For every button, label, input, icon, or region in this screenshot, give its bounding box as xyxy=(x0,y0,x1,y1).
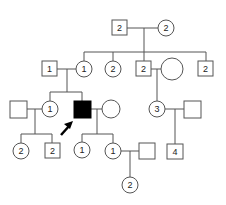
svg-text:4: 4 xyxy=(172,147,177,157)
pedigree-chart: 2 2 1 1 2 2 2 1 3 xyxy=(0,0,226,205)
svg-text:2: 2 xyxy=(141,64,146,74)
svg-text:2: 2 xyxy=(127,180,132,190)
proband-arrow-icon xyxy=(61,121,73,135)
svg-text:2: 2 xyxy=(50,146,55,156)
person-III-2-spouse xyxy=(102,100,120,118)
svg-text:1: 1 xyxy=(79,145,84,155)
person-II-3: 2 xyxy=(136,61,151,76)
svg-text:2: 2 xyxy=(18,146,23,156)
svg-text:2: 2 xyxy=(203,64,208,74)
person-II-1: 1 xyxy=(76,61,92,77)
person-IV-1: 2 xyxy=(13,143,29,159)
person-V-1: 2 xyxy=(122,177,138,193)
person-I-2: 2 xyxy=(158,20,174,36)
svg-text:1: 1 xyxy=(110,146,115,156)
person-III-spouse xyxy=(10,101,27,118)
person-IV-2: 2 xyxy=(45,143,60,158)
person-III-3-spouse xyxy=(184,101,201,118)
person-III-2-proband xyxy=(74,101,91,118)
svg-text:1: 1 xyxy=(47,104,52,114)
svg-text:2: 2 xyxy=(117,23,122,33)
person-IV-4-spouse xyxy=(139,143,155,159)
person-III-1: 1 xyxy=(42,101,58,117)
person-II-2: 2 xyxy=(105,61,121,77)
svg-text:1: 1 xyxy=(81,64,86,74)
pedigree-svg: 2 2 1 1 2 2 2 1 3 xyxy=(0,0,226,205)
person-II-4: 2 xyxy=(198,61,213,76)
svg-text:3: 3 xyxy=(154,104,159,114)
person-IV-3: 1 xyxy=(74,142,90,158)
person-II-spouse: 1 xyxy=(42,61,57,76)
svg-text:2: 2 xyxy=(163,23,168,33)
person-III-3: 3 xyxy=(149,101,165,117)
svg-text:2: 2 xyxy=(110,64,115,74)
person-IV-4: 1 xyxy=(105,143,121,159)
person-II-3-spouse xyxy=(161,58,183,80)
svg-text:1: 1 xyxy=(47,64,52,74)
person-I-1: 2 xyxy=(112,20,127,35)
person-IV-5: 4 xyxy=(167,144,183,159)
